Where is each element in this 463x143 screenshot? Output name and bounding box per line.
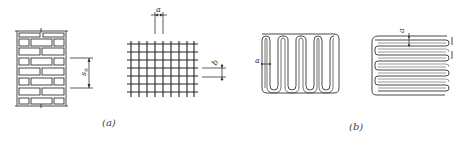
dimension-label-b-grid: b	[210, 58, 220, 67]
caption-panel-a: (a)	[102, 117, 116, 128]
vertical-serpentine-reinforcement	[262, 34, 339, 93]
caption-panel-b: (b)	[349, 121, 363, 132]
dimension-b-grid	[202, 64, 226, 81]
brick-wall	[15, 28, 68, 108]
dimension-a-vertical-serpentine	[261, 63, 271, 65]
dimension-label-a-vertical: a	[255, 56, 260, 65]
figure-canvas: sn a b	[0, 0, 463, 143]
dimension-label-a-grid: a	[156, 5, 161, 14]
wire-mesh-grid	[127, 41, 198, 97]
dimension-label-a-horizontal: a	[397, 28, 406, 33]
horizontal-serpentine-reinforcement	[372, 36, 452, 95]
dimension-a-grid	[151, 12, 167, 34]
dimension-label-sn: sn	[79, 68, 89, 76]
